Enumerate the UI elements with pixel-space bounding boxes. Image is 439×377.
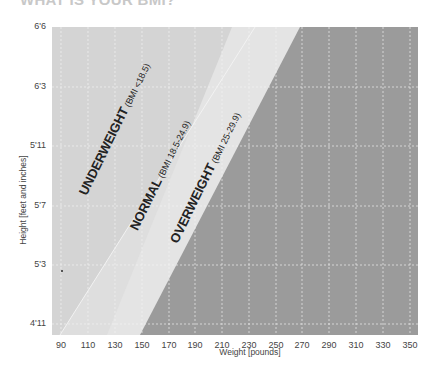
x-axis-title: Weight [pounds] (200, 347, 300, 357)
x-tick: 90 (46, 340, 76, 350)
y-tick: 4'11 (16, 318, 46, 328)
y-tick: 6'6 (16, 21, 46, 31)
x-tick: 350 (395, 340, 425, 350)
data-point-marker (61, 270, 63, 272)
bmi-zones (52, 27, 418, 335)
y-axis-title: Height [feet and inches] (18, 155, 28, 244)
x-tick: 310 (341, 340, 371, 350)
y-tick: 5'11 (16, 140, 46, 150)
y-tick: 6'3 (16, 81, 46, 91)
x-tick: 290 (314, 340, 344, 350)
x-tick: 150 (127, 340, 157, 350)
plot-area (52, 27, 418, 335)
chart-title: WHAT IS YOUR BMI? (20, 0, 175, 8)
x-tick: 110 (73, 340, 103, 350)
x-tick: 130 (100, 340, 130, 350)
y-tick: 5'3 (16, 259, 46, 269)
x-tick: 330 (368, 340, 398, 350)
